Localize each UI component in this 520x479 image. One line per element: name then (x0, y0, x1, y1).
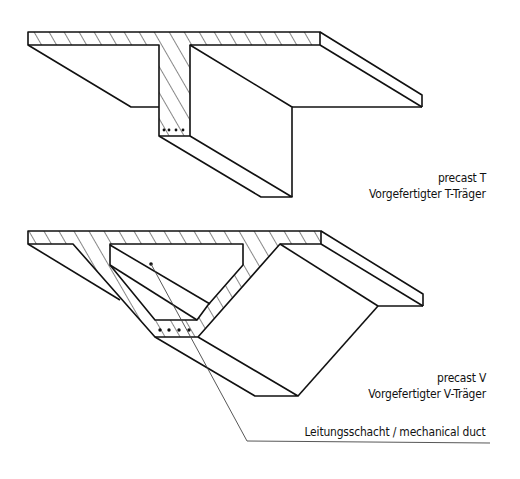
v-bottom-face (155, 337, 298, 396)
t-label-en: precast T (438, 170, 486, 185)
v-section-hatch (28, 231, 321, 337)
t-label-de: Vorgefertigter T-Träger (369, 186, 486, 201)
v-right-web-far-edge (298, 306, 378, 396)
t-right-flange-top-edge (320, 32, 422, 107)
t-left-flange-underside (28, 45, 159, 107)
precast-v-beam-drawing (28, 231, 423, 396)
v-right-web-receding (280, 244, 378, 306)
v-label-en: precast V (437, 370, 486, 385)
v-label-de: Vorgefertigter V-Träger (368, 386, 486, 401)
v-right-flange-bottom-edge (321, 244, 423, 306)
t-web-right-face-top (190, 45, 292, 197)
t-web-bottom-face (159, 136, 292, 197)
drawing-canvas (0, 0, 520, 479)
duct-callout-label: Leitungsschacht / mechanical duct (305, 424, 486, 439)
t-right-flange-bottom-edge (320, 45, 422, 107)
t-section-hatch (28, 32, 320, 136)
duct-leader-line (151, 264, 490, 443)
precast-t-beam-drawing (28, 32, 422, 197)
v-right-flange-top-edge (321, 231, 423, 306)
